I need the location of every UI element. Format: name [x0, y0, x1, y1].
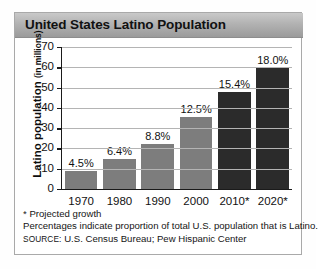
- bar: [103, 159, 136, 189]
- chart-figure: United States Latino Population Latino p…: [0, 0, 316, 269]
- chart-title-bar: United States Latino Population: [15, 13, 303, 38]
- x-axis-tick-label: 2020*: [240, 195, 305, 207]
- bar-group: 4.5%19706.4%19808.8%199012.5%200015.4%20…: [62, 47, 292, 189]
- gridline: [62, 47, 292, 48]
- bar-slot: 6.4%1980: [103, 47, 136, 189]
- gridline: [62, 148, 292, 149]
- chart-frame: United States Latino Population Latino p…: [14, 12, 302, 255]
- bar-slot: 4.5%1970: [65, 47, 98, 189]
- y-axis-tick: [57, 189, 62, 190]
- footnotes: * Projected growth Percentages indicate …: [23, 208, 299, 245]
- y-axis-tick-label: 40: [30, 102, 54, 114]
- y-axis-tick: [57, 148, 62, 149]
- y-axis-tick-label: 20: [30, 143, 54, 155]
- footnote-percent-note: Percentages indicate proportion of total…: [23, 220, 299, 232]
- y-axis-tick-label: 10: [30, 163, 54, 175]
- footnote-source: SOURCE: U.S. Census Bureau; Pew Hispanic…: [23, 233, 299, 245]
- y-axis-tick: [57, 67, 62, 68]
- gridline: [62, 88, 292, 89]
- footnote-projected: * Projected growth: [23, 208, 299, 220]
- bar: [141, 144, 174, 189]
- y-axis-tick: [57, 88, 62, 89]
- y-axis-tick-label: 30: [30, 122, 54, 134]
- gridline: [62, 128, 292, 129]
- bar-slot: 18.0%2020*: [256, 47, 289, 189]
- axes: 4.5%19706.4%19808.8%199012.5%200015.4%20…: [61, 47, 292, 190]
- y-axis-tick: [57, 169, 62, 170]
- bar-slot: 12.5%2000: [180, 47, 213, 189]
- y-axis-tick: [57, 128, 62, 129]
- y-axis-tick: [57, 47, 62, 48]
- y-axis-tick: [57, 108, 62, 109]
- y-axis-tick-label: 0: [30, 183, 54, 195]
- gridline: [62, 108, 292, 109]
- gridline: [62, 67, 292, 68]
- bar-slot: 8.8%1990: [141, 47, 174, 189]
- bar: [218, 92, 251, 189]
- source-text: U.S. Census Bureau; Pew Hispanic Center: [62, 233, 247, 244]
- gridline: [62, 169, 292, 170]
- bar: [65, 171, 98, 189]
- y-axis-tick-label: 50: [30, 82, 54, 94]
- bar-slot: 15.4%2010*: [218, 47, 251, 189]
- page-title: United States Latino Population: [25, 17, 226, 32]
- bar-value-label: 18.0%: [240, 54, 305, 66]
- source-word: SOURCE:: [23, 234, 62, 244]
- y-axis-tick-label: 60: [30, 62, 54, 74]
- y-axis-tick-label: 70: [30, 41, 54, 53]
